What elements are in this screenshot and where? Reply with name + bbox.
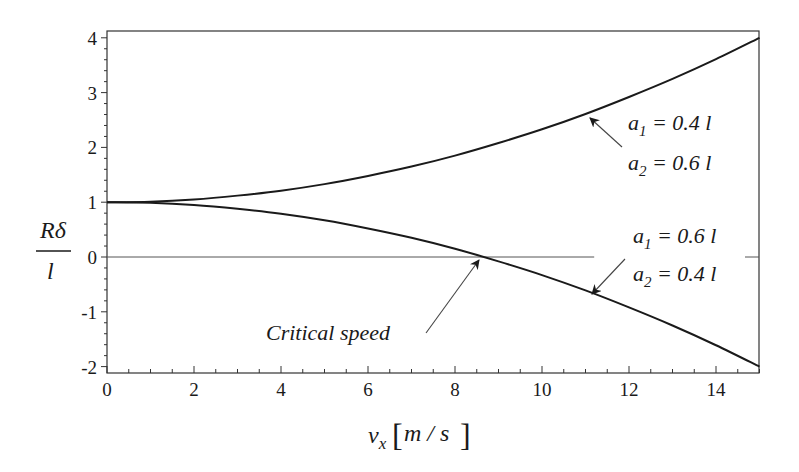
y-tick-label: -1 — [81, 302, 97, 323]
x-tick-label: 8 — [450, 379, 460, 400]
x-axis-label-bracket-right: ] — [460, 417, 471, 453]
y-tick-label: 3 — [88, 83, 98, 104]
x-tick-label: 6 — [363, 379, 373, 400]
y-axis-label-numerator: Rδ — [39, 217, 67, 243]
y-tick-label: 1 — [88, 192, 98, 213]
annotation-lower-a1: a1 = 0.6 l — [633, 223, 716, 252]
annotation-critical-speed: Critical speed — [266, 320, 391, 345]
x-tick-label: 10 — [533, 379, 552, 400]
x-axis-label: vx — [368, 422, 387, 453]
y-tick-label: 0 — [88, 247, 98, 268]
arrow-upper — [590, 118, 622, 147]
y-tick-label: 4 — [88, 28, 98, 49]
axis-tick-labels: 02468101214-2-101234 — [81, 28, 726, 400]
arrow-lower — [592, 259, 625, 294]
annotation-lower-a2: a2 = 0.4 l — [633, 261, 716, 290]
x-tick-label: 12 — [620, 379, 639, 400]
annotation-upper-a1: a1 = 0.4 l — [628, 110, 711, 139]
x-tick-label: 14 — [707, 379, 727, 400]
arrow-critical — [426, 260, 479, 333]
y-tick-label: 2 — [88, 137, 98, 158]
chart: 02468101214-2-101234 a1 = 0.4 l a2 = 0.6… — [0, 0, 799, 472]
y-axis-label-denominator: l — [47, 258, 54, 284]
x-axis-label-unit: m / s — [404, 420, 449, 446]
x-tick-label: 0 — [102, 379, 112, 400]
x-tick-label: 4 — [276, 379, 286, 400]
y-tick-label: -2 — [81, 357, 97, 378]
x-axis-label-bracket-left: [ — [392, 417, 403, 453]
annotation-upper-a2: a2 = 0.6 l — [628, 150, 711, 179]
x-tick-label: 2 — [189, 379, 199, 400]
